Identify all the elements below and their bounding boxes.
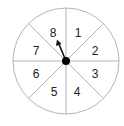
- section-label-8: 8: [50, 26, 57, 40]
- section-label-2: 2: [92, 44, 99, 58]
- section-label-1: 1: [75, 26, 82, 40]
- section-label-6: 6: [33, 67, 40, 81]
- spinner-diagram: 1 2 3 4 5 6 7 8: [0, 0, 124, 126]
- section-label-4: 4: [74, 85, 81, 99]
- section-label-5: 5: [51, 85, 58, 99]
- section-label-7: 7: [33, 44, 40, 58]
- section-label-3: 3: [92, 67, 99, 81]
- spinner-hub: [62, 57, 70, 65]
